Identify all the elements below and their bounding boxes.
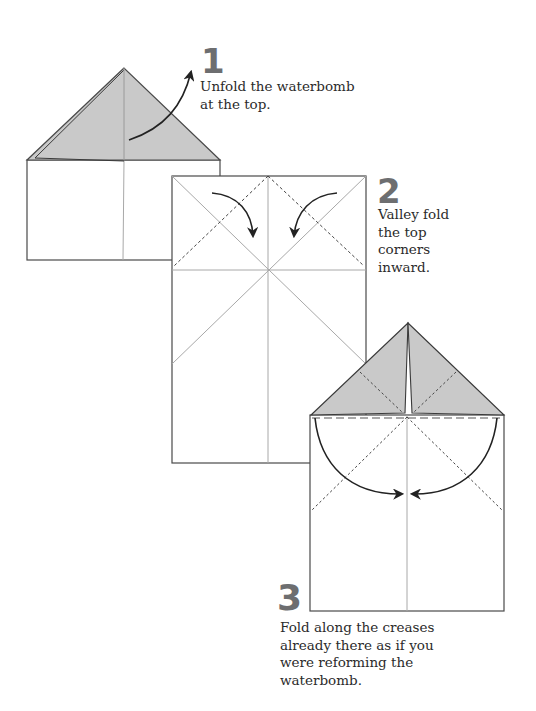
step-2-number: 2 [377, 174, 401, 208]
step-3-line: waterbomb. [280, 672, 434, 690]
step-2-line: Valley fold [378, 206, 449, 224]
step-3-instruction: Fold along the creases already there as … [280, 619, 434, 689]
step-2-line: corners [378, 241, 449, 259]
step-2-instruction: Valley fold the top corners inward. [378, 206, 449, 276]
step-3-line: were reforming the [280, 654, 434, 672]
step-2-line: the top [378, 224, 449, 242]
step-3-line: Fold along the creases [280, 619, 434, 637]
step-3-line: already there as if you [280, 637, 434, 655]
step-1-number: 1 [201, 44, 225, 78]
step-1-line: at the top. [200, 96, 355, 114]
step3-right-flap [408, 323, 504, 415]
step-1-line: Unfold the waterbomb [200, 78, 355, 96]
step-3-number: 3 [277, 580, 302, 616]
step-2-line: inward. [378, 259, 449, 277]
step-1-instruction: Unfold the waterbomb at the top. [200, 78, 355, 113]
